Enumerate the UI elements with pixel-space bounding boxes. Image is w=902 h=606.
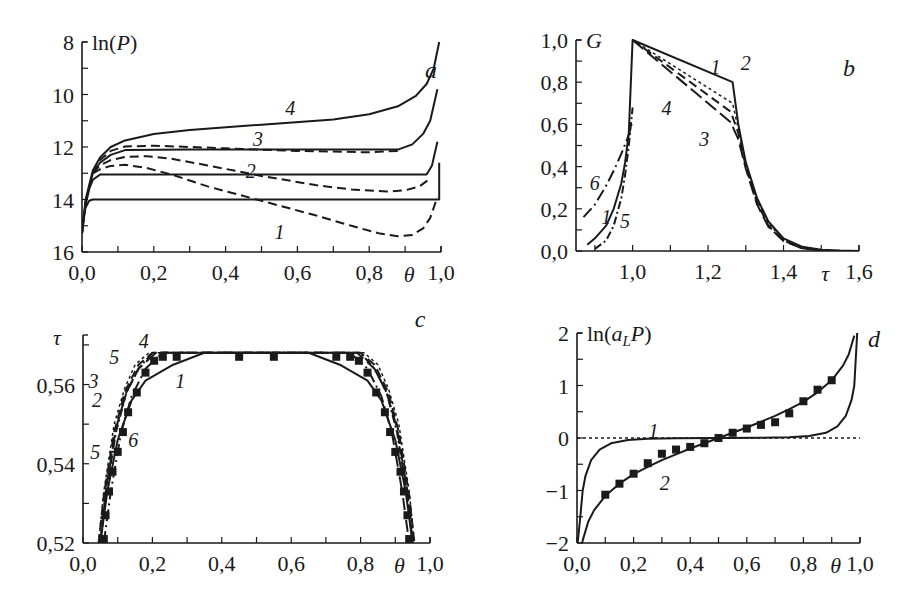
data-point-marker (700, 439, 708, 447)
x-tick-label: 1,6 (845, 259, 873, 284)
data-point-marker (397, 468, 405, 476)
data-point-marker (391, 448, 399, 456)
y-axis-label: G (586, 28, 602, 53)
x-tick-label: 1,0 (416, 551, 444, 576)
panel-c-chart: 0,00,20,40,60,81,00,520,540,56τθc4532561 (37, 306, 444, 578)
data-point-marker (644, 459, 652, 467)
panel-d-chart: 0,00,20,40,60,81,0−2−1012ln(aLP)θd12 (546, 321, 881, 578)
series-line-flat-14 (82, 163, 439, 234)
y-tick-label: 10 (52, 83, 74, 108)
data-point-marker (715, 434, 723, 442)
curve-label: 1 (175, 370, 185, 392)
series-line-3 (633, 40, 822, 250)
data-point-marker (173, 353, 181, 361)
data-point-marker (105, 487, 113, 495)
y-tick-label: 1 (558, 374, 569, 399)
data-point-marker (771, 418, 779, 426)
curve-label: 3 (87, 370, 98, 392)
data-point-marker (729, 429, 737, 437)
curve-label: 1 (601, 206, 611, 228)
y-tick-label: 0,6 (541, 112, 569, 137)
data-point-marker (601, 491, 609, 499)
y-tick-label: 0,0 (541, 239, 569, 264)
x-tick-label: 1,2 (694, 259, 722, 284)
curve-label: 4 (662, 97, 672, 119)
y-axis-label: τ (53, 325, 62, 350)
data-point-marker (630, 470, 638, 478)
curve-label: 6 (590, 172, 600, 194)
data-point-marker (372, 388, 380, 396)
y-tick-label: 8 (63, 30, 74, 55)
series-line-4 (633, 40, 822, 250)
y-tick-label: 0,52 (37, 531, 76, 556)
x-tick-label: 0,2 (139, 551, 167, 576)
y-axis-label: ln(aLP) (587, 321, 652, 349)
y-tick-label: 16 (52, 240, 74, 265)
figure: 0,00,20,40,60,81,0810121416ln(P)θa4321 1… (0, 0, 902, 606)
series-line-1 (100, 353, 412, 543)
panel-letter: c (415, 306, 426, 332)
data-point-marker (355, 357, 363, 365)
x-tick-label: 1,0 (846, 551, 874, 576)
curve-label: 1 (274, 221, 284, 243)
panel-a-chart: 0,00,20,40,60,81,0810121416ln(P)θa4321 (52, 30, 455, 287)
x-axis-label: θ (394, 553, 405, 578)
data-point-marker (686, 443, 694, 451)
x-tick-label: 1,0 (427, 260, 455, 285)
series-line-5 (100, 353, 412, 543)
data-point-marker (400, 487, 408, 495)
series-line-2 (633, 40, 822, 250)
data-point-marker (332, 353, 340, 361)
curve-label: 5 (620, 210, 630, 232)
series-line-2 (580, 336, 855, 559)
data-point-marker (346, 353, 354, 361)
y-tick-label: 0,2 (541, 197, 569, 222)
series-line-4 (100, 353, 412, 543)
data-point-marker (381, 408, 389, 416)
curve-label: 1 (648, 420, 658, 442)
y-tick-label: 2 (558, 321, 569, 346)
data-point-marker (235, 353, 243, 361)
data-point-marker (799, 397, 807, 405)
data-point-marker (814, 386, 822, 394)
y-tick-label: −2 (546, 531, 569, 556)
x-tick-label: 0,8 (355, 260, 383, 285)
data-point-marker (615, 480, 623, 488)
y-tick-label: 0,8 (541, 70, 569, 95)
data-point-marker (100, 535, 108, 543)
data-point-marker (405, 535, 413, 543)
data-point-marker (386, 428, 394, 436)
series-line-6 (584, 120, 633, 217)
data-point-marker (119, 428, 127, 436)
x-tick-label: 0,4 (676, 551, 704, 576)
y-tick-label: 0,4 (541, 155, 569, 180)
data-point-marker (672, 446, 680, 454)
x-axis-label: θ (404, 262, 415, 287)
x-tick-label: 0,6 (733, 551, 761, 576)
data-point-marker (159, 353, 167, 361)
data-point-marker (133, 388, 141, 396)
curve-label: 4 (285, 97, 295, 119)
curve-label: 4 (139, 330, 149, 352)
y-tick-label: 12 (52, 135, 74, 160)
y-tick-label: 0,54 (37, 452, 76, 477)
data-point-marker (124, 408, 132, 416)
y-tick-label: −1 (546, 479, 569, 504)
data-point-marker (270, 353, 278, 361)
panel-letter: b (843, 55, 855, 81)
data-point-marker (785, 409, 793, 417)
y-tick-label: 14 (52, 188, 74, 213)
x-tick-label: 0,2 (620, 551, 648, 576)
x-axis-label: τ (821, 261, 830, 286)
x-tick-label: 0,4 (208, 551, 236, 576)
panel-b-chart: 1,01,21,41,60,00,20,40,60,81,0Gτb1234561 (541, 28, 873, 286)
x-axis-label: θ (830, 553, 841, 578)
data-point-marker (658, 450, 666, 458)
panel-letter: d (868, 326, 881, 352)
data-point-marker (141, 369, 149, 377)
curve-label: 3 (252, 128, 263, 150)
curve-label: 5 (109, 346, 119, 368)
x-tick-label: 0,8 (347, 551, 375, 576)
series-line-6 (104, 353, 409, 543)
y-tick-label: 0,56 (37, 373, 76, 398)
